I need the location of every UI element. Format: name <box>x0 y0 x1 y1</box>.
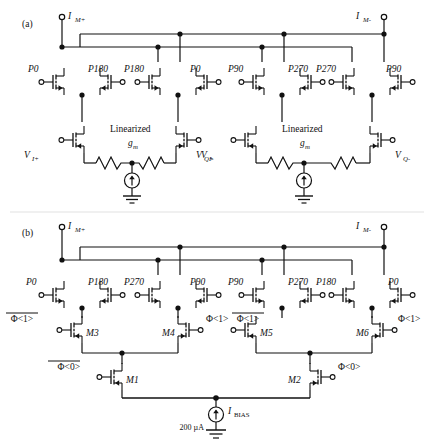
pmos-b-5-label: P270 <box>287 277 308 287</box>
pmos-b-4-label: P90 <box>227 277 244 287</box>
circuit-schematic: (a) I M+ I M- P0 <box>0 0 434 447</box>
vin-left-sub: I+ <box>31 155 39 162</box>
m1-gate-label: Φ<0> <box>58 362 80 372</box>
pmos-b-7-label: P0 <box>387 277 399 287</box>
pmos-a-3-label: P0 <box>189 64 201 74</box>
terminal-node-icon <box>59 224 64 229</box>
ibias-sub: BIAS <box>234 411 250 418</box>
m2-label: M2 <box>287 375 301 385</box>
m2-gate-label: Φ<0> <box>338 362 360 372</box>
terminal-node-icon <box>59 14 64 19</box>
gm-left-title: Linearized <box>110 124 151 134</box>
terminal-node-icon <box>381 14 386 19</box>
m3-gate-label: Φ<1> <box>11 314 33 324</box>
pmos-b-6-label: P180 <box>315 277 336 287</box>
pmos-a-0-label: P0 <box>27 64 39 74</box>
pmos-a-6-label: P270 <box>315 64 336 74</box>
m5-label: M5 <box>259 328 273 338</box>
pmos-a-5-label: P270 <box>287 64 308 74</box>
pmos-a-4-label: P90 <box>227 64 244 74</box>
terminal-im-plus-sub: M+ <box>74 16 85 23</box>
gm-right-gm-sub: m <box>305 143 310 150</box>
terminal-b-im-plus-sub: M+ <box>74 226 85 233</box>
m4-label: M4 <box>161 328 175 338</box>
pmos-b-3-label: P90 <box>189 277 206 287</box>
bias-value-label: 200 µA <box>180 423 205 432</box>
pmos-a-7-label: P90 <box>385 64 402 74</box>
panel-a-tag: (a) <box>22 19 33 30</box>
gm-left-gm-sub: m <box>133 143 138 150</box>
terminal-node-icon <box>381 224 386 229</box>
vqn-right-sub: Q- <box>403 155 411 162</box>
gm-right-title: Linearized <box>282 124 323 134</box>
pmos-b-2-label: P270 <box>123 277 144 287</box>
terminal-im-minus-sub: M- <box>362 16 372 23</box>
m4-gate-label: Φ<1> <box>206 314 228 324</box>
m6-label: M6 <box>355 328 369 338</box>
current-source-left <box>125 173 140 188</box>
m1-label: M1 <box>125 375 139 385</box>
canvas-background <box>0 0 434 447</box>
pmos-b-0-label: P0 <box>25 277 37 287</box>
panel-b-tag: (b) <box>22 228 33 239</box>
m5-gate-label: Φ<1> <box>237 314 259 324</box>
terminal-b-im-minus-sub: M- <box>362 226 372 233</box>
m3-label: M3 <box>85 328 99 338</box>
pmos-a-2-label: P180 <box>123 64 144 74</box>
pmos-b-1-label: P180 <box>87 277 108 287</box>
pmos-a-1-label: P180 <box>87 64 108 74</box>
current-source-right <box>297 173 312 188</box>
vqn-left-sub: Q+ <box>204 155 214 162</box>
m6-gate-label: Φ<1> <box>398 314 420 324</box>
figure-root: (a) I M+ I M- P0 <box>0 0 434 447</box>
